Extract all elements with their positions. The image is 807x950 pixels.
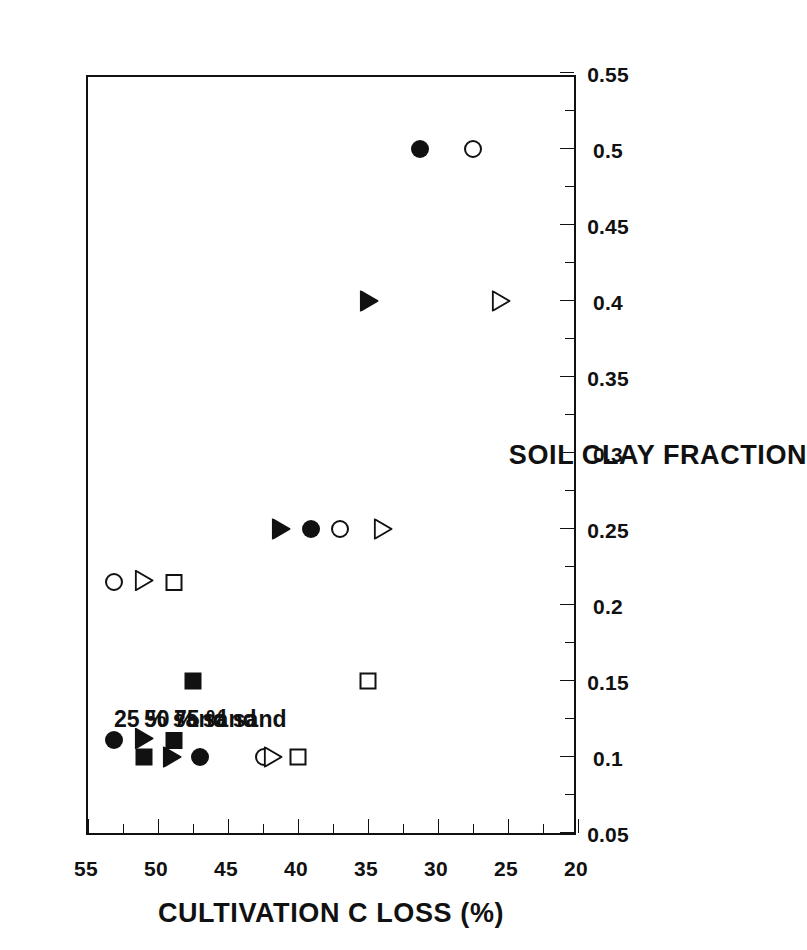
x-axis-minor-tick	[565, 186, 574, 187]
x-axis-major-tick	[560, 832, 574, 833]
x-axis-tick-label: 0.35	[587, 367, 629, 391]
y-axis-major-tick	[158, 819, 159, 833]
x-axis-minor-tick	[565, 642, 574, 643]
x-axis-title: SOIL CLAY FRACTION	[509, 440, 807, 471]
data-point	[272, 519, 291, 540]
data-point	[374, 519, 393, 540]
data-point	[360, 291, 379, 312]
y-axis-tick-label: 45	[214, 857, 238, 881]
y-axis-major-tick	[228, 819, 229, 833]
legend-filled-marker	[165, 732, 182, 749]
x-axis-major-tick	[560, 72, 574, 73]
data-point	[492, 291, 511, 312]
x-axis-major-tick	[560, 604, 574, 605]
y-axis-tick-label: 50	[144, 857, 168, 881]
y-axis-tick-label: 20	[564, 857, 588, 881]
y-axis-title: CULTIVATION C LOSS (%)	[158, 898, 504, 929]
x-axis-tick-label: 0.15	[587, 671, 629, 695]
y-axis-minor-tick	[543, 824, 544, 833]
x-axis-minor-tick	[565, 338, 574, 339]
x-axis-tick-label: 0.55	[587, 63, 629, 87]
data-point	[302, 520, 320, 538]
x-axis-tick-label: 0.2	[593, 595, 623, 619]
y-axis-major-tick	[298, 819, 299, 833]
x-axis-major-tick	[560, 300, 574, 301]
data-point	[464, 140, 482, 158]
y-axis-tick-label: 30	[424, 857, 448, 881]
y-axis-minor-tick	[263, 824, 264, 833]
x-axis-tick-label: 0.4	[593, 291, 623, 315]
data-point	[331, 520, 349, 538]
y-axis-major-tick	[88, 819, 89, 833]
x-axis-tick-label: 0.25	[587, 519, 629, 543]
y-axis-major-tick	[368, 819, 369, 833]
y-axis-tick-label: 40	[284, 857, 308, 881]
y-axis-minor-tick	[193, 824, 194, 833]
y-axis-minor-tick	[123, 824, 124, 833]
data-point	[163, 747, 182, 768]
legend-open-marker	[105, 573, 123, 591]
y-axis-major-tick	[578, 819, 579, 833]
data-point	[360, 673, 377, 690]
legend-filled-marker	[105, 731, 123, 749]
data-point	[411, 140, 429, 158]
x-axis-major-tick	[560, 528, 574, 529]
y-axis-tick-label: 35	[354, 857, 378, 881]
rotated-chart-group: 25 % sand50 % sand75 % sand 555045403530…	[44, 25, 644, 925]
x-axis-minor-tick	[565, 718, 574, 719]
y-axis-minor-tick	[403, 824, 404, 833]
x-axis-major-tick	[560, 376, 574, 377]
y-axis-minor-tick	[473, 824, 474, 833]
x-axis-major-tick	[560, 148, 574, 149]
x-axis-tick-label: 0.1	[593, 747, 623, 771]
data-point	[263, 747, 282, 768]
x-axis-minor-tick	[565, 566, 574, 567]
x-axis-minor-tick	[565, 490, 574, 491]
x-axis-minor-tick	[565, 262, 574, 263]
y-axis-tick-label: 55	[74, 857, 98, 881]
x-axis-major-tick	[560, 680, 574, 681]
y-axis-major-tick	[508, 819, 509, 833]
data-point	[191, 748, 209, 766]
y-axis-minor-tick	[333, 824, 334, 833]
x-axis-minor-tick	[565, 110, 574, 111]
x-axis-tick-label: 0.05	[587, 823, 629, 847]
x-axis-minor-tick	[565, 794, 574, 795]
x-axis-tick-label: 0.45	[587, 215, 629, 239]
legend-label: 75 % sand	[174, 706, 287, 733]
x-axis-tick-label: 0.5	[593, 139, 623, 163]
y-axis-major-tick	[438, 819, 439, 833]
x-axis-major-tick	[560, 756, 574, 757]
y-axis-tick-label: 25	[494, 857, 518, 881]
data-point	[290, 749, 307, 766]
x-axis-major-tick	[560, 224, 574, 225]
data-point	[185, 673, 202, 690]
x-axis-minor-tick	[565, 414, 574, 415]
data-point	[136, 749, 153, 766]
legend-open-marker	[134, 570, 153, 591]
plot-area: 25 % sand50 % sand75 % sand	[86, 75, 576, 835]
legend-open-marker	[165, 574, 182, 591]
